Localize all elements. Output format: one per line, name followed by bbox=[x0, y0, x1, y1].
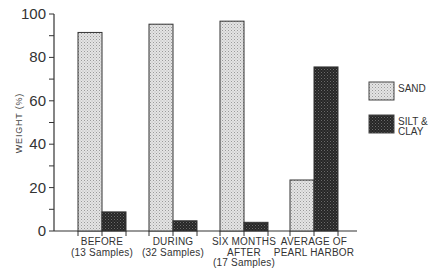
category-label: DURING bbox=[153, 236, 194, 247]
bar-group bbox=[78, 32, 126, 231]
y-axis: 020406080100 bbox=[21, 5, 54, 239]
bar-silt-clay bbox=[314, 67, 338, 231]
category-label: PEARL HARBOR bbox=[274, 247, 354, 258]
category-label: (32 Samples) bbox=[142, 247, 204, 258]
legend-swatch bbox=[369, 115, 394, 133]
category-label: SIX MONTHS bbox=[212, 236, 276, 247]
category-label: (13 Samples) bbox=[71, 247, 133, 258]
category-label: BEFORE bbox=[81, 236, 123, 247]
bar-silt-clay bbox=[173, 221, 197, 231]
category-label: AFTER bbox=[227, 247, 261, 258]
bar-chart: 020406080100 BEFORE(13 Samples)DURING(32… bbox=[0, 0, 435, 279]
bar-group bbox=[290, 67, 338, 231]
bar-sand bbox=[78, 32, 102, 231]
legend-item-silt-clay: SILT &CLAY bbox=[369, 115, 428, 137]
legend: SANDSILT &CLAY bbox=[369, 82, 428, 137]
bar-sand bbox=[290, 180, 314, 231]
legend-swatch bbox=[369, 82, 394, 100]
y-tick-label: 100 bbox=[21, 5, 46, 22]
bar-group bbox=[220, 21, 268, 231]
legend-item-sand: SAND bbox=[369, 82, 426, 100]
category-label: (17 Samples) bbox=[213, 257, 275, 268]
legend-label: SAND bbox=[398, 83, 426, 94]
y-tick-label: 40 bbox=[29, 135, 46, 152]
category-label: AVERAGE OF bbox=[281, 236, 347, 247]
bars bbox=[78, 21, 338, 231]
bar-sand bbox=[149, 24, 173, 231]
bar-group bbox=[149, 24, 197, 231]
y-tick-label: 80 bbox=[29, 48, 46, 65]
y-tick-label: 0 bbox=[38, 222, 46, 239]
bar-silt-clay bbox=[102, 212, 126, 231]
bar-silt-clay bbox=[244, 222, 268, 231]
y-axis-title: WEIGHT (%) bbox=[14, 93, 24, 153]
bar-sand bbox=[220, 21, 244, 231]
y-tick-label: 20 bbox=[29, 179, 46, 196]
legend-label: CLAY bbox=[398, 126, 424, 137]
y-tick-label: 60 bbox=[29, 92, 46, 109]
category-labels: BEFORE(13 Samples)DURING(32 Samples)SIX … bbox=[71, 236, 354, 268]
